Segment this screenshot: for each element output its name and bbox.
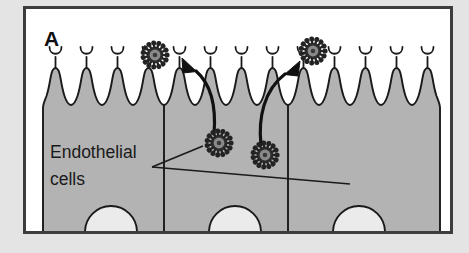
- figure-panel-a: A Endothelial cells: [0, 0, 469, 253]
- cell-label-line2: cells: [50, 169, 85, 189]
- panel-label: A: [44, 27, 59, 50]
- cell-label-line1: Endothelial: [50, 142, 137, 162]
- diagram-canvas: A Endothelial cells: [0, 0, 469, 253]
